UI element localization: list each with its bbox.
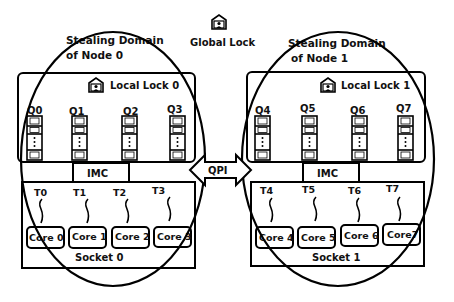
thread-icon — [168, 197, 171, 221]
thread-label: T0 — [34, 187, 47, 198]
thread-icon — [357, 198, 360, 222]
core-label: Core 1 — [72, 231, 107, 242]
core-label: Core 0 — [29, 232, 64, 243]
task-queue — [352, 116, 367, 160]
thread-icon — [126, 199, 129, 223]
local-lock-1-label: Local Lock 1 — [341, 80, 410, 91]
core-label: Core 2 — [115, 231, 150, 242]
local-lock-0-icon — [89, 78, 103, 92]
task-queue — [398, 116, 413, 160]
thread-label: T4 — [260, 185, 273, 196]
socket-1-label: Socket 1 — [312, 252, 360, 263]
global-lock: Global Lock — [190, 15, 255, 48]
thread-icon — [40, 199, 43, 223]
thread-label: T5 — [302, 184, 315, 195]
global-lock-icon — [212, 15, 226, 29]
node-0: Local Lock 0 Q0 Q1 Q2 Q3 IMC T0 T1 T2 T3… — [18, 32, 205, 286]
core-label: Core 6 — [344, 230, 379, 241]
local-lock-1-icon — [321, 78, 335, 92]
core-label: Core 5 — [301, 232, 336, 243]
numa-work-stealing-diagram: Local Lock 0 Q0 Q1 Q2 Q3 IMC T0 T1 T2 T3… — [0, 0, 454, 302]
thread-icon — [86, 199, 89, 223]
queue-label: Q7 — [396, 103, 412, 114]
thread-label: T1 — [73, 187, 86, 198]
thread-label: T3 — [152, 185, 165, 196]
thread-icon — [270, 198, 273, 222]
imc-label: IMC — [317, 168, 338, 179]
thread-label: T7 — [386, 183, 399, 194]
task-queue — [27, 116, 42, 160]
task-queue — [302, 116, 317, 160]
stealing-domain-0-label-2: of Node 0 — [66, 49, 123, 61]
thread-label: T6 — [348, 185, 361, 196]
thread-icon — [314, 197, 317, 221]
task-queue — [255, 116, 270, 160]
imc-label: IMC — [87, 168, 108, 179]
stealing-domain-1-label-2: of Node 1 — [291, 52, 348, 64]
local-lock-0-label: Local Lock 0 — [110, 80, 179, 91]
socket-0-label: Socket 0 — [75, 252, 123, 263]
queue-label: Q4 — [255, 105, 271, 116]
global-lock-label: Global Lock — [190, 37, 255, 48]
task-queue — [122, 116, 137, 160]
queue-label: Q3 — [167, 104, 183, 115]
qpi-label: QPI — [208, 165, 228, 176]
thread-icon — [398, 197, 401, 221]
queue-label: Q6 — [350, 105, 366, 116]
task-queue — [170, 116, 185, 160]
qpi-interconnect: QPI — [190, 155, 251, 185]
thread-label: T2 — [113, 187, 126, 198]
task-queue — [72, 116, 87, 160]
queue-label: Q5 — [300, 103, 316, 114]
node-1: Local Lock 1 Q4 Q5 Q6 Q7 IMC T4 T5 T6 T7… — [242, 32, 434, 286]
